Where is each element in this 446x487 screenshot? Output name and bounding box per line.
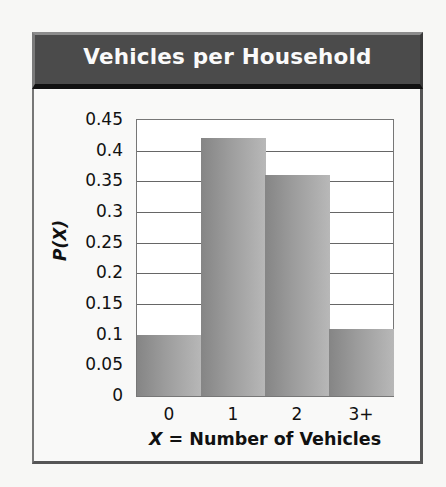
x-axis-equals: = xyxy=(162,429,189,449)
y-tick-label: 0 xyxy=(63,387,123,404)
y-tick-label: 0.15 xyxy=(63,295,123,312)
y-tick-label: 0.2 xyxy=(63,264,123,281)
y-tick-label: 0.35 xyxy=(63,172,123,189)
x-axis-variable: X xyxy=(149,429,163,449)
x-tick-label: 1 xyxy=(213,404,253,424)
chart-header: Vehicles per Household xyxy=(32,32,423,89)
chart-title: Vehicles per Household xyxy=(35,44,420,69)
x-tick-label: 2 xyxy=(277,404,317,424)
y-tick-label: 0.1 xyxy=(63,326,123,343)
y-axis-label: P(X) xyxy=(50,221,70,261)
bar-3+ xyxy=(329,329,394,396)
y-tick-label: 0.05 xyxy=(63,356,123,373)
x-axis-label: X = Number of Vehicles xyxy=(136,429,394,449)
y-tick-label: 0.45 xyxy=(63,111,123,128)
y-tick-label: 0.3 xyxy=(63,203,123,220)
plot-area xyxy=(136,119,394,397)
y-tick-label: 0.4 xyxy=(63,142,123,159)
y-tick-label: 0.25 xyxy=(63,234,123,251)
bar-2 xyxy=(265,175,330,396)
bar-0 xyxy=(137,335,202,396)
bar-1 xyxy=(201,138,266,396)
x-axis-text: Number of Vehicles xyxy=(189,429,381,449)
x-tick-label: 0 xyxy=(149,404,189,424)
x-tick-label: 3+ xyxy=(341,404,381,424)
